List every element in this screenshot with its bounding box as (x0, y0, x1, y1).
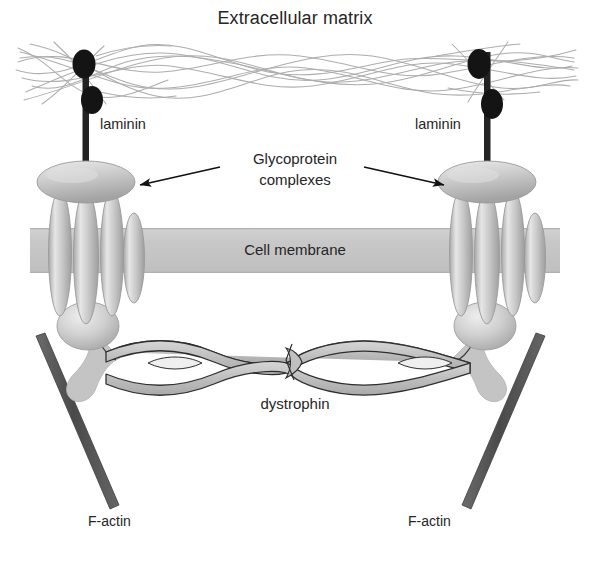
label-cell-membrane: Cell membrane (0, 241, 590, 258)
label-f-actin-right: F-actin (408, 513, 451, 529)
diagram-canvas: Extracellular matrix laminin laminin Gly… (0, 0, 590, 561)
label-glycoprotein-line2: complexes (0, 169, 590, 190)
label-dystrophin: dystrophin (0, 395, 590, 412)
diagram-svg (0, 0, 590, 561)
label-glycoprotein-line1: Glycoprotein (0, 148, 590, 169)
dystrophin-coiled-coil (104, 340, 472, 395)
label-f-actin-left: F-actin (88, 513, 131, 529)
figure-title: Extracellular matrix (0, 8, 590, 29)
label-laminin-left: laminin (100, 116, 146, 132)
label-glycoprotein-complexes: Glycoprotein complexes (0, 148, 590, 190)
label-laminin-right: laminin (415, 116, 461, 132)
